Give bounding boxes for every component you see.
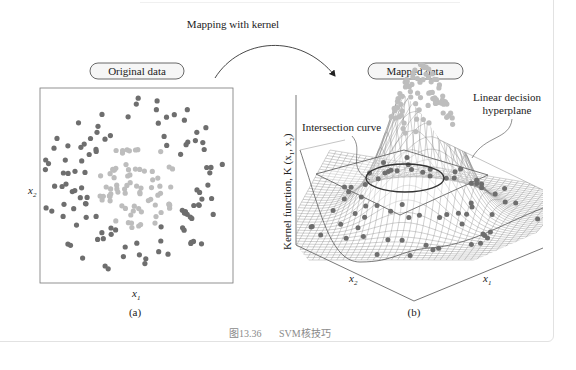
x1-axis-label: x1	[482, 272, 491, 287]
mapping-label: Mapping with kernel	[187, 18, 279, 30]
svm-kernel-figure: Mapping with kernel Original data x2 x1 …	[0, 0, 576, 370]
caption-text: SVM核技巧	[279, 327, 331, 339]
original-data-title: Original data	[108, 65, 166, 77]
mapping-arrow-icon	[215, 45, 335, 78]
y-axis-label: x2	[27, 184, 37, 199]
z-axis-label: Kernel function, K (x1, x2)	[281, 133, 296, 250]
intersection-curve-label: Intersection curve	[302, 121, 381, 133]
hyperplane-label-line2: hyperplane	[483, 104, 532, 116]
hyperplane-label-line1: Linear decision	[473, 91, 542, 103]
original-data-pill: Original data	[90, 63, 184, 79]
hyperplane-leader-line	[472, 119, 512, 158]
caption-number: 图13.36	[229, 328, 262, 339]
panel-a-sublabel: (a)	[129, 306, 142, 319]
x-axis-label: x1	[131, 287, 140, 302]
x2-axis-label: x2	[348, 272, 358, 287]
panel-b-sublabel: (b)	[408, 306, 421, 319]
